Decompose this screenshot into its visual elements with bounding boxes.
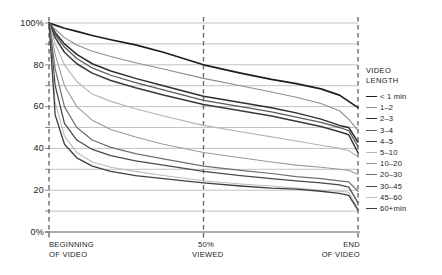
legend-item[interactable]: 5–10 — [366, 147, 442, 158]
x-tick-label-end: END OF VIDEO — [305, 240, 360, 260]
y-tick-label: 40 — [14, 144, 44, 153]
legend-item-label: 1–2 — [380, 103, 393, 112]
legend-item-label: 5–10 — [380, 148, 398, 157]
x-tick-label-beginning: BEGINNING OF VIDEO — [49, 240, 94, 260]
x-tick-label-midpoint: 50% VIEWED — [192, 240, 220, 260]
legend-color-swatch — [366, 163, 377, 164]
y-axis-tick-marks — [45, 23, 50, 232]
legend-item-label: 4–5 — [380, 137, 393, 146]
legend-color-swatch — [366, 130, 377, 131]
legend-color-swatch — [366, 208, 377, 209]
legend-items-list: < 1 min1–22–33–44–55–1010–2020–3030–4545… — [366, 91, 442, 214]
legend-item[interactable]: 3–4 — [366, 125, 442, 136]
legend-color-swatch — [366, 186, 377, 187]
y-tick-label: 60 — [14, 102, 44, 111]
legend-item-label: 2–3 — [380, 114, 393, 123]
legend-item[interactable]: 4–5 — [366, 136, 442, 147]
legend-color-swatch — [366, 152, 377, 153]
legend-title: VIDEO LENGTH — [366, 66, 442, 86]
y-tick-label: 80 — [14, 61, 44, 70]
legend-item-label: 45–60 — [380, 193, 402, 202]
legend-item[interactable]: 20–30 — [366, 169, 442, 180]
legend-color-swatch — [366, 141, 377, 142]
legend-item[interactable]: 10–20 — [366, 158, 442, 169]
y-tick-label: 0% — [14, 228, 44, 237]
legend-item-label: < 1 min — [380, 92, 407, 101]
legend-color-swatch — [366, 197, 377, 198]
legend-item-label: 10–20 — [380, 159, 402, 168]
legend-color-swatch — [366, 174, 377, 175]
legend: VIDEO LENGTH < 1 min1–22–33–44–55–1010–2… — [366, 66, 442, 214]
legend-item[interactable]: 45–60 — [366, 192, 442, 203]
legend-item[interactable]: < 1 min — [366, 91, 442, 102]
legend-item[interactable]: 60+min — [366, 203, 442, 214]
legend-color-swatch — [366, 118, 377, 119]
legend-item-label: 3–4 — [380, 126, 393, 135]
video-retention-chart: 100% 80 60 40 20 0% BEGINNING OF VIDEO 5… — [0, 0, 442, 275]
legend-item[interactable]: 30–45 — [366, 181, 442, 192]
legend-color-swatch — [366, 107, 377, 108]
legend-item-label: 30–45 — [380, 182, 402, 191]
legend-item-label: 60+min — [380, 204, 406, 213]
legend-color-swatch — [366, 96, 377, 97]
legend-item[interactable]: 1–2 — [366, 102, 442, 113]
legend-item-label: 20–30 — [380, 170, 402, 179]
y-tick-label: 20 — [14, 186, 44, 195]
legend-item[interactable]: 2–3 — [366, 113, 442, 124]
y-tick-label: 100% — [14, 19, 44, 28]
